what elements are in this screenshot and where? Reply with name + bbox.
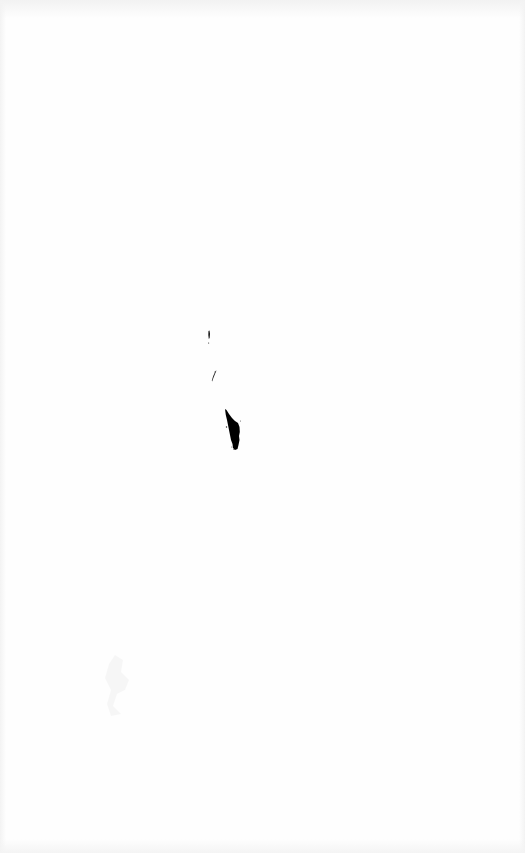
small-island-north	[208, 331, 210, 344]
scanned-page	[0, 0, 525, 853]
large-island-south	[225, 409, 241, 450]
island-map	[0, 0, 525, 853]
faded-scan-mark	[95, 650, 145, 720]
small-island-middle	[212, 371, 217, 382]
